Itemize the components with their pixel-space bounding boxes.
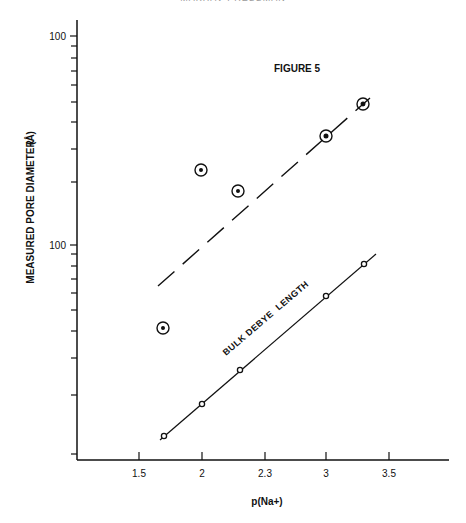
y-tick-label-top: 100 [49, 31, 66, 42]
x-tick-label: 2 [199, 468, 205, 479]
measured-points [157, 98, 369, 334]
dashed-fit-line [158, 98, 370, 286]
y-axis-title: MEASURED PORE DIAMETER [25, 140, 36, 284]
x-tick-label: 2.3 [258, 468, 272, 479]
figure-label: FIGURE 5 [274, 63, 321, 74]
x-tick-label: 3 [323, 468, 329, 479]
y-tick-label-mid: 100 [49, 240, 66, 251]
y-ticks [70, 36, 77, 454]
x-ticks [139, 452, 389, 460]
x-tick-label: 3.5 [382, 468, 396, 479]
y-axis-unit: (Å) [24, 131, 36, 145]
chart: 100 100 1.5 2 2.3 3 3.5 p(Na+) MEASURED … [0, 0, 466, 523]
x-axis-title: p(Na+) [251, 496, 282, 507]
debye-line-label: BULK DEBYE LENGTH [221, 279, 311, 358]
x-tick-label: 1.5 [132, 468, 146, 479]
debye-length-line [160, 254, 376, 440]
